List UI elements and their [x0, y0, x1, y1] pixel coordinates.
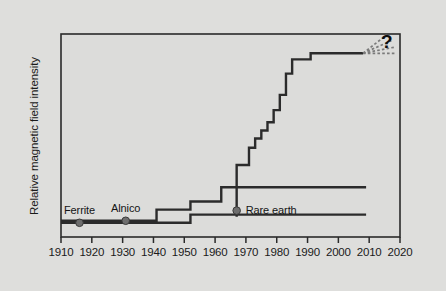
x-axis-tick-label: 2000: [326, 246, 351, 258]
series-label-rare-earth: Rare earth: [246, 204, 297, 216]
x-axis-tick-label: 1930: [110, 246, 135, 258]
x-axis-tick-label: 1970: [234, 246, 259, 258]
chart-figure: 1910192019301940195019601970198019902000…: [0, 0, 446, 291]
series-marker-rare-earth: [233, 207, 241, 215]
x-axis-tick-label: 2010: [357, 246, 382, 258]
series-marker-alnico: [122, 217, 130, 225]
x-axis-tick-label: 1940: [141, 246, 166, 258]
x-axis-tick-label: 1980: [264, 246, 289, 258]
magnet-intensity-chart: 1910192019301940195019601970198019902000…: [0, 0, 446, 291]
x-axis-tick-label: 1910: [49, 246, 74, 258]
x-axis-tick-label: 1950: [172, 246, 197, 258]
x-axis-tick-label: 1960: [203, 246, 228, 258]
series-marker-ferrite: [76, 219, 84, 227]
series-label-ferrite: Ferrite: [64, 204, 95, 216]
y-axis-label: Relative magnetic field intensity: [28, 57, 40, 215]
x-axis-tick-label: 2020: [388, 246, 413, 258]
x-axis-tick-label: 1920: [79, 246, 104, 258]
series-label-alnico: Alnico: [111, 202, 140, 214]
x-axis-tick-label: 1990: [295, 246, 320, 258]
question-mark-label: ?: [381, 31, 393, 52]
